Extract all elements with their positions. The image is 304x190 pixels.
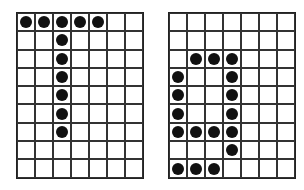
grid-cell xyxy=(277,86,295,104)
grid-cell xyxy=(35,13,53,31)
grid-cell xyxy=(125,104,143,122)
filled-dot-icon xyxy=(190,163,202,175)
grid-cell xyxy=(169,86,187,104)
grid-cell xyxy=(53,31,71,49)
grid-cell xyxy=(187,13,205,31)
filled-dot-icon xyxy=(226,126,238,138)
grid-cell xyxy=(241,104,259,122)
grid-cell xyxy=(17,123,35,141)
grid-cell xyxy=(169,50,187,68)
filled-dot-icon xyxy=(74,16,86,28)
grid-cell xyxy=(35,50,53,68)
grid-cell xyxy=(223,68,241,86)
grid-cell xyxy=(259,13,277,31)
filled-dot-icon xyxy=(226,89,238,101)
grid-cell xyxy=(241,86,259,104)
grid-cell xyxy=(187,104,205,122)
grid-cell xyxy=(107,13,125,31)
grid-cell xyxy=(277,31,295,49)
filled-dot-icon xyxy=(172,126,184,138)
grid-cell xyxy=(277,159,295,177)
filled-dot-icon xyxy=(226,108,238,120)
grid-cell xyxy=(205,68,223,86)
grid-cell xyxy=(17,159,35,177)
grid-cell xyxy=(259,86,277,104)
grid-cell xyxy=(277,50,295,68)
grid-cell xyxy=(187,123,205,141)
grid-cell xyxy=(223,13,241,31)
grid-cell xyxy=(35,123,53,141)
grid-cell xyxy=(89,123,107,141)
grid-cell xyxy=(89,141,107,159)
grid-cell xyxy=(241,50,259,68)
grid-cell xyxy=(169,13,187,31)
grid-cell xyxy=(223,31,241,49)
grid-cell xyxy=(71,86,89,104)
grid-cell xyxy=(259,31,277,49)
grid-cell xyxy=(71,31,89,49)
grid-cell xyxy=(277,123,295,141)
grid-cell xyxy=(107,68,125,86)
grid-cell xyxy=(53,13,71,31)
grid-cell xyxy=(277,13,295,31)
filled-dot-icon xyxy=(226,144,238,156)
grid-cell xyxy=(17,141,35,159)
grid-cell xyxy=(169,159,187,177)
grid-cell xyxy=(107,50,125,68)
grid-cell xyxy=(125,159,143,177)
grid-cell xyxy=(17,31,35,49)
grid-cell xyxy=(35,68,53,86)
grid-cell xyxy=(35,141,53,159)
grid-cell xyxy=(241,159,259,177)
grid-cell xyxy=(125,50,143,68)
grid-cell xyxy=(223,159,241,177)
grid-cell xyxy=(241,13,259,31)
grid-cell xyxy=(17,50,35,68)
grid-cell xyxy=(205,13,223,31)
grid-cell xyxy=(125,31,143,49)
grid-cell xyxy=(259,50,277,68)
grid-cell xyxy=(223,141,241,159)
grid-cell xyxy=(205,141,223,159)
grid-cell xyxy=(35,86,53,104)
grid-cell xyxy=(71,123,89,141)
grid-cell xyxy=(169,123,187,141)
grid-cell xyxy=(53,68,71,86)
grid-cell xyxy=(17,13,35,31)
grid-cell xyxy=(205,104,223,122)
grid-cell xyxy=(89,13,107,31)
filled-dot-icon xyxy=(56,16,68,28)
grid-cell xyxy=(259,141,277,159)
grid-cell xyxy=(53,104,71,122)
grid-cell xyxy=(205,159,223,177)
grid-cell xyxy=(125,141,143,159)
grid-cell xyxy=(53,123,71,141)
filled-dot-icon xyxy=(56,89,68,101)
grid-cell xyxy=(71,50,89,68)
grid-cell xyxy=(53,159,71,177)
grid-cell xyxy=(187,31,205,49)
grid-cell xyxy=(125,123,143,141)
grid-cell xyxy=(205,50,223,68)
grid-cell xyxy=(223,86,241,104)
grid-cell xyxy=(107,159,125,177)
grid-cell xyxy=(125,86,143,104)
grid-cell xyxy=(107,141,125,159)
filled-dot-icon xyxy=(208,53,220,65)
filled-dot-icon xyxy=(20,16,32,28)
grid-cell xyxy=(169,68,187,86)
filled-dot-icon xyxy=(226,71,238,83)
grid-cell xyxy=(17,68,35,86)
grid-cell xyxy=(71,141,89,159)
grid-cell xyxy=(71,159,89,177)
grid-cell xyxy=(89,68,107,86)
grid-cell xyxy=(205,123,223,141)
filled-dot-icon xyxy=(56,71,68,83)
grid-cell xyxy=(107,31,125,49)
filled-dot-icon xyxy=(172,163,184,175)
filled-dot-icon xyxy=(172,71,184,83)
left-dot-grid xyxy=(16,12,144,179)
filled-dot-icon xyxy=(56,53,68,65)
grid-cell xyxy=(277,104,295,122)
grid-cell xyxy=(107,86,125,104)
